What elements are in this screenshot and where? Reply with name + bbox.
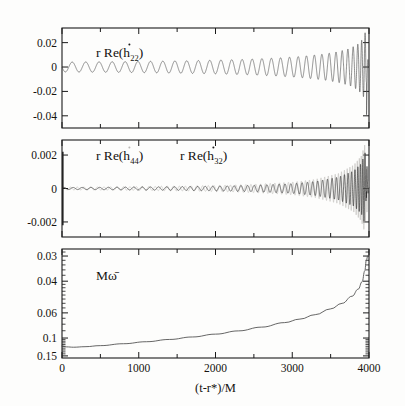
gravitational-wave-figure: 01000200030004000(t-r*)/M0.020-0.02-0.04… bbox=[0, 0, 405, 406]
bottom-panel-label: Mω̄ bbox=[96, 268, 120, 283]
y-tick-label-bottom: 0.03 bbox=[37, 250, 57, 262]
y-tick-label-middle: 0 bbox=[51, 183, 57, 195]
y-tick-label-bottom: 0.06 bbox=[37, 307, 57, 319]
middle-panel-label-h44-overdot bbox=[128, 147, 130, 149]
y-tick-label-middle: 0.002 bbox=[31, 149, 57, 161]
top-panel-label-text: r Re(h22) bbox=[96, 45, 143, 63]
middle-panel-label-h32: r Re(h32) bbox=[180, 148, 227, 166]
y-tick-label-bottom: 0.04 bbox=[37, 275, 57, 287]
top-panel-label: r Re(h22) bbox=[96, 45, 143, 63]
middle-panel-label-h32-text: r Re(h32) bbox=[180, 148, 227, 166]
x-tick-label: 3000 bbox=[281, 362, 304, 374]
y-tick-label-top: 0 bbox=[51, 61, 57, 73]
top-panel-label-overdot bbox=[128, 44, 130, 46]
x-axis-title: (t-r*)/M bbox=[195, 381, 236, 395]
middle-panel-label-h44: r Re(h44) bbox=[96, 148, 143, 166]
plot-canvas: 01000200030004000(t-r*)/M0.020-0.02-0.04… bbox=[0, 0, 405, 406]
y-tick-label-top: -0.02 bbox=[33, 85, 57, 97]
x-tick-label: 4000 bbox=[358, 362, 381, 374]
x-tick-label: 1000 bbox=[127, 362, 150, 374]
x-tick-label: 2000 bbox=[204, 362, 227, 374]
y-tick-label-bottom: 0.15 bbox=[37, 350, 57, 362]
panel-frame-top bbox=[62, 28, 369, 128]
y-tick-label-middle: -0.002 bbox=[27, 216, 57, 228]
y-tick-label-top: -0.04 bbox=[33, 110, 57, 122]
y-tick-label-bottom: 0.1 bbox=[43, 332, 58, 344]
x-tick-label: 0 bbox=[59, 362, 65, 374]
panel-frame-bottom bbox=[62, 249, 369, 358]
middle-panel-label-h32-overdot bbox=[212, 147, 214, 149]
y-tick-label-top: 0.02 bbox=[37, 37, 57, 49]
middle-panel-label-h44-text: r Re(h44) bbox=[96, 148, 143, 166]
